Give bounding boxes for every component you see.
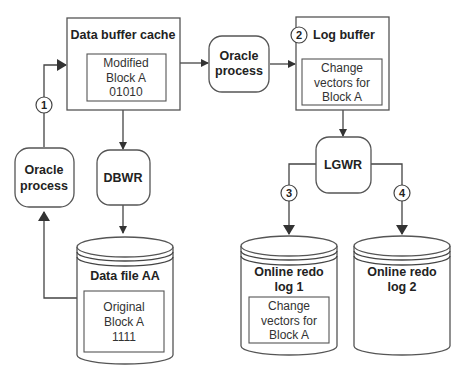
step-marker-2: 2 (291, 27, 307, 43)
step-1-label: 1 (41, 99, 47, 111)
online-redo-log-1-title-line-2: log 1 (274, 280, 303, 294)
lgwr-label: LGWR (324, 158, 362, 172)
dbwr-process[interactable]: DBWR (97, 150, 150, 205)
online-redo-log-2[interactable]: Online redo log 2 (354, 236, 450, 355)
dbwr-label: DBWR (104, 171, 143, 185)
redo-log-1-content-line-2: vectors for (261, 314, 317, 328)
step-4-label: 4 (399, 187, 406, 199)
oracle-process-left[interactable]: Oracle process (15, 148, 74, 207)
data-buffer-cache-title: Data buffer cache (71, 28, 176, 42)
lgwr-process[interactable]: LGWR (316, 137, 371, 193)
redo-log-1-content-line-1: Change (268, 299, 310, 313)
redo-log-1-content-line-3: Block A (269, 328, 309, 342)
log-buffer[interactable]: Log buffer Change vectors for Block A (296, 17, 389, 110)
oracle-process-middle-line-2: process (215, 64, 263, 78)
data-file-aa-title: Data file AA (90, 269, 160, 283)
step-3-label: 3 (286, 187, 292, 199)
log-buffer-title: Log buffer (313, 28, 375, 42)
step-marker-1: 1 (36, 97, 52, 113)
step-marker-3: 3 (281, 185, 297, 201)
diagram-canvas: Data buffer cache Modified Block A 01010… (0, 0, 466, 371)
modified-block-line-1: Modified (103, 56, 148, 70)
step-marker-4: 4 (394, 185, 410, 201)
data-buffer-cache[interactable]: Data buffer cache Modified Block A 01010 (67, 18, 180, 110)
original-block-line-1: Original (103, 300, 144, 314)
modified-block-line-3: 01010 (109, 85, 143, 99)
data-file-aa[interactable]: Data file AA Original Block A 1111 (77, 237, 173, 364)
oracle-process-left-line-2: process (20, 179, 68, 193)
edge-data-file-to-oracle-process (44, 212, 77, 298)
online-redo-log-2-title-line-1: Online redo (367, 265, 437, 279)
log-buffer-content-line-1: Change (321, 61, 363, 75)
oracle-process-middle-line-1: Oracle (220, 49, 259, 63)
log-buffer-content-line-2: vectors for (314, 76, 370, 90)
online-redo-log-1[interactable]: Online redo log 1 Change vectors for Blo… (241, 236, 337, 355)
online-redo-log-2-title-line-2: log 2 (387, 280, 416, 294)
step-2-label: 2 (296, 29, 302, 41)
online-redo-log-1-title-line-1: Online redo (254, 265, 324, 279)
oracle-process-left-line-1: Oracle (25, 163, 64, 177)
original-block-line-2: Block A (104, 315, 144, 329)
log-buffer-content-line-3: Block A (322, 90, 362, 104)
original-block-line-3: 1111 (112, 330, 136, 344)
oracle-process-middle[interactable]: Oracle process (209, 36, 269, 92)
modified-block-line-2: Block A (106, 71, 146, 85)
